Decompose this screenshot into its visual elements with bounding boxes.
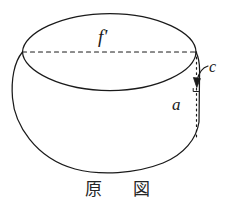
top-rim-lower-arc bbox=[23, 52, 197, 91]
rim-thickness-tick bbox=[193, 89, 198, 92]
rim-thickness-arrow-shaft bbox=[197, 66, 208, 80]
figure-page: f' c a 原 図 bbox=[0, 0, 235, 201]
label-f-prime: f' bbox=[98, 27, 107, 46]
figure-caption: 原 図 bbox=[0, 181, 235, 198]
top-rim-upper-arc bbox=[23, 14, 197, 53]
label-a: a bbox=[172, 96, 181, 113]
barrel-diagram bbox=[0, 0, 235, 201]
label-c: c bbox=[209, 59, 216, 75]
